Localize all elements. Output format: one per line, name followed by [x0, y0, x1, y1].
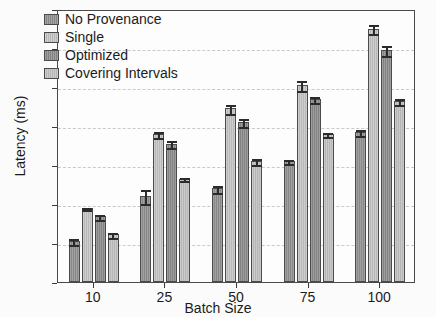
gridline: [58, 89, 414, 90]
bar: [251, 161, 262, 282]
error-bar-cap-top: [382, 46, 392, 48]
legend-swatch-icon: [44, 32, 59, 43]
x-tick-mark: [236, 283, 237, 288]
x-tick-mark: [308, 283, 309, 288]
legend-label: Single: [65, 30, 104, 44]
bar: [381, 50, 392, 282]
legend-label: Optimized: [65, 48, 128, 62]
legend-label: Covering Intervals: [65, 66, 178, 80]
bar: [225, 108, 236, 282]
legend-swatch-icon: [44, 14, 59, 25]
error-bar-cap-top: [141, 190, 151, 192]
bar: [153, 134, 164, 282]
bar: [284, 161, 295, 282]
y-axis-title: Latency (ms): [12, 71, 28, 201]
legend-label: No Provenance: [65, 12, 162, 26]
x-tick-mark: [164, 283, 165, 288]
legend-item: Optimized: [44, 47, 178, 63]
bar: [108, 234, 119, 282]
x-axis-title: Batch Size: [0, 300, 436, 316]
error-bar-cap-top: [239, 119, 249, 121]
error-bar-cap-top: [297, 81, 307, 83]
bar: [69, 241, 80, 282]
legend-swatch-icon: [44, 68, 59, 79]
bar: [238, 122, 249, 282]
legend-item: No Provenance: [44, 11, 178, 27]
legend: No ProvenanceSingleOptimizedCovering Int…: [44, 11, 178, 81]
bar: [368, 29, 379, 283]
bar: [394, 101, 405, 282]
bar: [212, 188, 223, 282]
bar: [95, 216, 106, 282]
legend-item: Covering Intervals: [44, 65, 178, 81]
error-bar-cap-top: [167, 141, 177, 143]
bar: [297, 85, 308, 282]
error-bar-cap-top: [213, 186, 223, 188]
bar: [166, 144, 177, 282]
y-tick-mark: [52, 283, 57, 284]
chart-screenshot: Latency (ms) 01234567 10255075100 Batch …: [0, 0, 436, 317]
bar: [82, 208, 93, 282]
error-bar-cap-top: [226, 105, 236, 107]
bar: [140, 196, 151, 282]
legend-item: Single: [44, 29, 178, 45]
legend-swatch-icon: [44, 50, 59, 61]
bar: [323, 134, 334, 282]
bar: [179, 179, 190, 282]
error-bar-cap-top: [369, 25, 379, 27]
bar: [310, 99, 321, 282]
bar: [355, 132, 366, 282]
x-tick-mark: [379, 283, 380, 288]
gridline: [58, 128, 414, 129]
x-tick-mark: [93, 283, 94, 288]
